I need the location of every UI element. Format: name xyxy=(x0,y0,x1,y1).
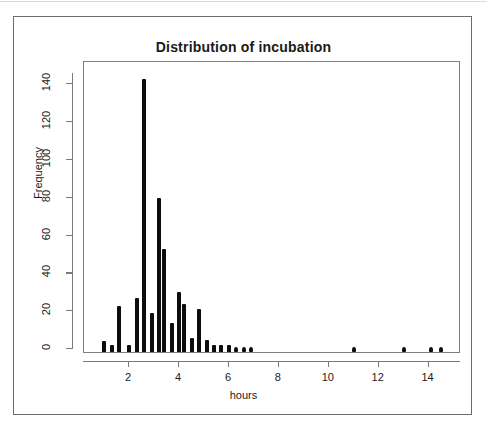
x-tick-mark xyxy=(278,361,279,367)
data-spike xyxy=(182,304,186,352)
data-spike xyxy=(205,340,209,352)
y-axis-title: Frequency xyxy=(32,123,44,223)
x-tick-label: 8 xyxy=(266,371,290,383)
data-spike xyxy=(352,347,356,352)
data-spike xyxy=(102,341,106,352)
data-spike xyxy=(117,306,121,353)
x-tick-mark xyxy=(128,361,129,367)
scan-artifact-line xyxy=(0,1,487,2)
y-tick-mark xyxy=(66,159,72,160)
x-tick-mark xyxy=(228,361,229,367)
data-spike xyxy=(402,347,406,352)
y-tick-mark xyxy=(66,83,72,84)
data-spike xyxy=(234,347,238,352)
x-tick-label: 6 xyxy=(216,371,240,383)
data-spike xyxy=(439,347,443,352)
data-spike xyxy=(219,345,223,352)
y-tick-label: 40 xyxy=(40,257,52,285)
y-tick-mark xyxy=(66,121,72,122)
x-tick-mark xyxy=(378,361,379,367)
x-axis-line xyxy=(83,361,460,362)
y-tick-label: 0 xyxy=(40,333,52,361)
figure-frame: Distribution of incubation 0204060801001… xyxy=(13,16,472,415)
x-tick-label: 10 xyxy=(316,371,340,383)
y-tick-mark xyxy=(66,197,72,198)
screenshot-page: Distribution of incubation 0204060801001… xyxy=(0,0,487,429)
data-spike xyxy=(242,347,246,352)
x-axis-title: hours xyxy=(14,389,473,401)
data-spike xyxy=(135,298,139,352)
data-spike xyxy=(177,292,181,352)
x-tick-mark xyxy=(328,361,329,367)
data-spike xyxy=(429,347,433,352)
x-tick-mark xyxy=(178,361,179,367)
data-spike xyxy=(110,345,114,352)
y-tick-label: 140 xyxy=(40,68,52,96)
plot-area xyxy=(83,61,460,353)
data-spike xyxy=(227,345,231,352)
y-tick-label: 60 xyxy=(40,220,52,248)
data-spike xyxy=(157,198,161,352)
chart-title: Distribution of incubation xyxy=(14,39,473,55)
data-spike xyxy=(170,323,174,352)
data-spike xyxy=(197,309,201,352)
y-tick-mark xyxy=(66,235,72,236)
data-spike xyxy=(127,345,131,352)
data-spike xyxy=(150,313,154,352)
data-spike xyxy=(142,79,146,352)
data-spike xyxy=(162,249,166,352)
data-spike xyxy=(212,345,216,352)
data-spike xyxy=(249,347,253,352)
data-spike xyxy=(190,338,194,352)
x-tick-label: 2 xyxy=(116,371,140,383)
x-tick-mark xyxy=(428,361,429,367)
y-axis-line xyxy=(72,73,73,349)
x-tick-label: 14 xyxy=(416,371,440,383)
x-tick-label: 4 xyxy=(166,371,190,383)
plot-series-layer xyxy=(84,62,459,352)
y-tick-label: 20 xyxy=(40,295,52,323)
y-tick-mark xyxy=(66,310,72,311)
x-tick-label: 12 xyxy=(366,371,390,383)
y-tick-mark xyxy=(66,272,72,273)
y-tick-mark xyxy=(66,348,72,349)
